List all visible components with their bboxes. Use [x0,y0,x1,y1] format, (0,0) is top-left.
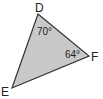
angle-label-d: 70° [37,26,52,37]
vertex-label-d: D [35,1,44,15]
angle-label-f: 64° [65,49,80,60]
vertex-label-f: F [91,50,98,64]
triangle-diagram: D F E 70° 64° [0,0,103,99]
vertex-label-e: E [1,85,9,99]
